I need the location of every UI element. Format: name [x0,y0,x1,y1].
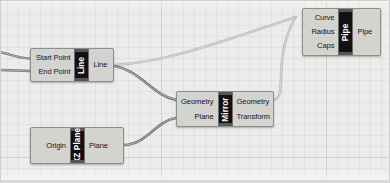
port-label-start-point[interactable]: Start Point [31,53,74,63]
port-nub-origin[interactable] [30,143,31,150]
node-pipe[interactable]: Curve Radius Caps Pipe Pipe [302,8,381,56]
grasshopper-canvas[interactable]: Start Point End Point Line Line Origin X… [0,0,390,183]
node-xz-plane[interactable]: Origin XZ Plane Plane [30,127,124,164]
port-nub-pipe-out[interactable] [380,29,381,36]
node-line-title[interactable]: Line [74,49,89,81]
node-mirror-inputs: Geometry Plane [177,92,218,126]
port-nub-curve[interactable] [302,15,303,22]
port-nub-mirror-geometry[interactable] [176,98,177,105]
node-mirror[interactable]: Geometry Plane Mirror Geometry Transform [176,91,274,127]
port-label-transform-out[interactable]: Transform [233,112,274,122]
node-xz-plane-inputs: Origin [31,128,70,163]
port-nub-radius[interactable] [302,29,303,36]
port-nub-mirror-plane[interactable] [176,114,177,121]
node-mirror-title[interactable]: Mirror [218,92,233,126]
port-label-caps[interactable]: Caps [303,41,338,51]
port-nub-plane-out[interactable] [123,143,124,150]
port-nub-mirror-geometry-out[interactable] [273,98,274,105]
port-nub-line-out[interactable] [113,62,114,69]
port-label-curve[interactable]: Curve [303,13,338,23]
node-pipe-title[interactable]: Pipe [338,9,353,55]
port-nub-end-point[interactable] [30,69,31,76]
port-nub-caps[interactable] [302,43,303,50]
node-pipe-inputs: Curve Radius Caps [303,9,338,55]
node-line-title-label: Line [77,56,86,73]
port-label-geometry-in[interactable]: Geometry [177,97,218,107]
node-line-inputs: Start Point End Point [31,49,74,81]
port-label-geometry-out[interactable]: Geometry [233,97,274,107]
port-label-pipe-out[interactable]: Pipe [353,27,376,37]
port-label-plane-out[interactable]: Plane [85,141,112,151]
port-label-origin[interactable]: Origin [31,141,70,151]
node-pipe-title-label: Pipe [341,23,350,41]
port-label-radius[interactable]: Radius [303,27,338,37]
node-xz-plane-title[interactable]: XZ Plane [70,128,85,163]
port-label-plane-in[interactable]: Plane [177,112,218,122]
node-xz-plane-title-label: XZ Plane [73,128,82,163]
node-line-outputs: Line [89,49,113,81]
node-xz-plane-outputs: Plane [85,128,123,163]
port-label-line-out[interactable]: Line [89,60,111,70]
node-mirror-title-label: Mirror [221,97,230,121]
port-label-end-point[interactable]: End Point [31,67,74,77]
node-line[interactable]: Start Point End Point Line Line [30,48,114,82]
port-nub-start-point[interactable] [30,55,31,62]
node-mirror-outputs: Geometry Transform [233,92,274,126]
port-nub-mirror-transform-out[interactable] [273,114,274,121]
node-pipe-outputs: Pipe [353,9,380,55]
